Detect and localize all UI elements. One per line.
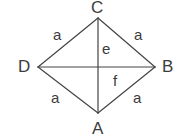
edge-label-dc: a — [53, 27, 61, 42]
vertex-label-c: C — [91, 0, 103, 16]
edge-label-da: a — [51, 90, 59, 105]
rhombus-diagram: C D B A a a a a e f — [0, 0, 180, 140]
edge-label-ab: a — [133, 90, 141, 105]
edge-label-cb: a — [134, 27, 142, 42]
edge-dc-line — [38, 18, 98, 67]
edge-da-line — [38, 67, 98, 113]
edge-ab-line — [98, 67, 155, 113]
vertex-label-b: B — [162, 58, 173, 75]
vertex-label-a: A — [92, 120, 103, 137]
diagonal-label-e: e — [102, 41, 110, 56]
diagonal-label-f: f — [113, 73, 117, 88]
vertex-label-d: D — [18, 58, 30, 75]
